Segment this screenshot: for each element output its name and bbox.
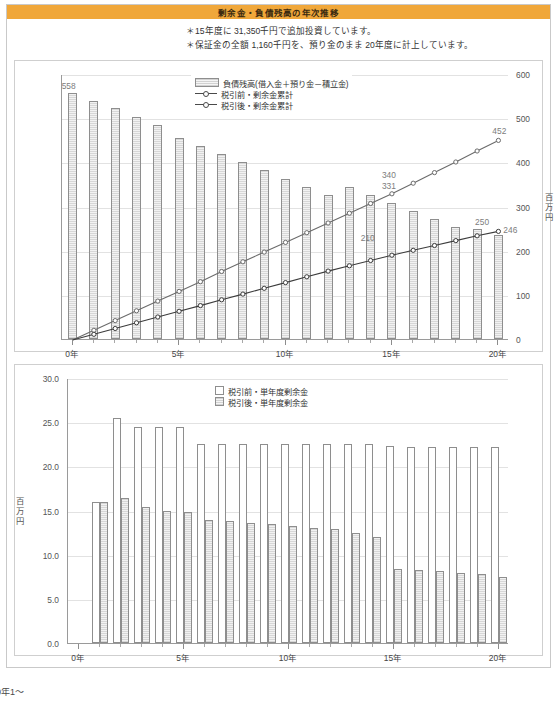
plot-area-top: 558452340331250246210 [61,75,508,340]
bar [134,427,142,643]
legend-item: 税引後・剰余金累計 [195,99,348,110]
x-axis-tick-label: 5年 [172,347,185,359]
x-axis-tick-mark [199,340,200,343]
line-marker [432,243,436,247]
y-axis-tick-label: 500 [516,114,544,124]
bar [184,512,192,643]
x-axis-tick-mark [348,340,349,343]
x-axis-tick-mark [78,644,79,649]
note-bullet: ＊ [186,24,195,38]
line-marker [198,280,202,284]
x-axis-tick-mark [99,644,100,647]
footer-text: 0年1～ [0,688,24,698]
footer-clipped-text: 0年1～ [0,688,120,704]
x-axis-tick-label: 15年 [382,347,399,359]
y-axis-tick-label: 400 [516,158,544,168]
bar [239,444,247,643]
line-marker [134,321,138,325]
data-label: 558 [62,81,76,91]
y-axis-tick-label: 300 [516,203,544,213]
data-label: 331 [382,181,396,191]
line-marker [454,160,458,164]
line-marker [347,264,351,268]
note-text: 15年度に 31,350千円で追加投資しています。 [195,24,376,38]
line-marker [475,234,479,238]
y-axis-tick-label: 20.0 [21,462,59,472]
line-marker [283,240,287,244]
line-marker [262,286,266,290]
x-axis-tick-mark [162,644,163,647]
bar [289,526,297,643]
x-axis-tick-mark [157,340,158,343]
bar [92,502,100,643]
x-axis-tick-mark [93,340,94,343]
line-marker [411,181,415,185]
chart-page: 剰余金・負債残高の年次推移 ＊ 15年度に 31,350千円で追加投資しています… [0,0,557,705]
x-axis-tick-mark [242,340,243,343]
bar [436,571,444,643]
line-marker [326,269,330,273]
y-axis-tick-label: 15.0 [21,507,59,517]
legend-top: 負債残高(借入金＋預り金－積立金) 税引前・剰余金累計 税引後・剰余金累計 [191,75,352,112]
line-marker [113,326,117,330]
bar [155,427,163,643]
y-axis-tick-label: 600 [516,70,544,80]
x-axis-tick-label: 0年 [71,651,84,663]
x-axis-tick-mark [351,644,352,647]
line-marker [305,231,309,235]
note-text: 保証金の全額 1,160千円を、預り金のまま 20年度に計上しています。 [195,38,473,52]
x-axis-tick-mark [370,340,371,343]
bar [197,444,205,643]
bar [499,577,507,643]
legend-item: 税引前・単年度剰余金 [215,385,308,396]
line-marker [411,248,415,252]
line-marker [496,138,500,142]
x-axis-tick-mark [393,644,394,649]
data-label: 452 [492,126,506,136]
x-axis-tick-mark [497,340,498,345]
line-marker [326,221,330,225]
line-marker [177,289,181,293]
line-marker [262,250,266,254]
notes-list: ＊ 15年度に 31,350千円で追加投資しています。 ＊ 保証金の全額 1,1… [186,24,546,52]
bar [331,529,339,643]
line-marker [156,315,160,319]
page-title: 剰余金・負債残高の年次推移 [218,6,339,18]
line-marker [198,304,202,308]
y-axis-tick-label: 25.0 [21,418,59,428]
line-marker [156,299,160,303]
y-axis-tick-label: 0 [516,335,544,345]
line-marker [283,281,287,285]
line-marker [220,298,224,302]
bar [373,537,381,643]
y-axis-tick-label: 5.0 [21,595,59,605]
note-item: ＊ 保証金の全額 1,160千円を、預り金のまま 20年度に計上しています。 [186,38,546,52]
bar [365,444,373,643]
bar [428,447,436,643]
bar [344,444,352,643]
bar [470,447,478,643]
x-axis-tick-mark [414,644,415,647]
x-axis-tick-mark [141,644,142,647]
x-axis-tick-mark [498,644,499,649]
gridline [68,379,508,380]
chart-liabilities-and-surplus: 558452340331250246210 百万円 負債残高(借入金＋預り金－積… [14,60,543,352]
line-marker [390,192,394,196]
x-axis-tick-label: 10年 [279,651,296,663]
y-axis-tick-label: 10.0 [21,551,59,561]
data-label: 210 [361,233,375,243]
line-marker [369,201,373,205]
bar [394,569,402,643]
y-axis-tick-label: 100 [516,291,544,301]
x-axis-tick-mark [306,340,307,343]
bar [310,528,318,643]
x-axis-tick-mark [225,644,226,647]
bar [205,520,213,643]
line-marker [496,229,500,233]
x-axis-tick-label: 5年 [176,651,189,663]
bar [352,533,360,643]
bar [100,502,108,643]
line-marker [220,269,224,273]
bar [457,573,465,643]
x-axis-tick-mark [114,340,115,343]
